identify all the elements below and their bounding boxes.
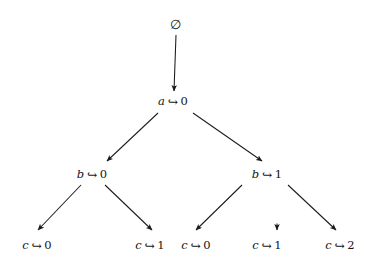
node-value: 0	[203, 238, 211, 252]
edge-b1-to-c2-right	[288, 185, 336, 230]
node-value: 0	[44, 238, 52, 252]
node-label-empty-set: ∅	[170, 17, 181, 32]
hookrightarrow-icon: ↪	[332, 239, 347, 251]
hookrightarrow-icon: ↪	[165, 95, 180, 107]
node-variable: c	[325, 238, 332, 252]
node-variable: c	[252, 238, 259, 252]
hookrightarrow-icon: ↪	[188, 239, 203, 251]
node-variable: c	[181, 238, 188, 252]
node-value: 1	[157, 238, 165, 252]
node-value: 1	[275, 167, 283, 181]
edge-b1-to-c0-right	[196, 185, 242, 230]
hookrightarrow-icon: ↪	[259, 168, 274, 180]
node-variable: b	[77, 167, 85, 181]
hookrightarrow-icon: ↪	[142, 239, 157, 251]
edge-a0-to-b1	[193, 113, 262, 161]
tree-node-c-0-right: c↪0	[181, 239, 210, 252]
node-value: 0	[100, 167, 108, 181]
tree-node-c-1-left: c↪1	[135, 239, 164, 252]
hookrightarrow-icon: ↪	[84, 168, 99, 180]
tree-diagram: ∅ a↪0 b↪0 b↪1 c↪0 c↪1 c↪0 c↪1 c↪2	[0, 0, 368, 265]
edge-a0-to-b0	[107, 113, 158, 161]
node-value: 2	[347, 238, 355, 252]
tree-node-b-1: b↪1	[252, 168, 282, 181]
tree-node-c-2-right: c↪2	[325, 239, 354, 252]
node-variable: a	[158, 94, 165, 108]
hookrightarrow-icon: ↪	[259, 239, 274, 251]
tree-node-root: ∅	[170, 19, 181, 32]
tree-node-b-0: b↪0	[77, 168, 107, 181]
node-variable: c	[135, 238, 142, 252]
tree-node-c-1-right: c↪1	[252, 239, 281, 252]
hookrightarrow-icon: ↪	[29, 239, 44, 251]
edge-b0-to-c0-left	[38, 185, 81, 230]
node-value: 0	[180, 94, 188, 108]
edge-b0-to-c1-left	[105, 185, 152, 230]
edge-root-to-a0	[174, 35, 176, 91]
node-variable: c	[22, 238, 29, 252]
tree-node-a-0: a↪0	[158, 95, 188, 108]
node-variable: b	[252, 167, 260, 181]
node-value: 1	[274, 238, 282, 252]
edge-layer	[0, 0, 368, 265]
tree-node-c-0-left: c↪0	[22, 239, 51, 252]
